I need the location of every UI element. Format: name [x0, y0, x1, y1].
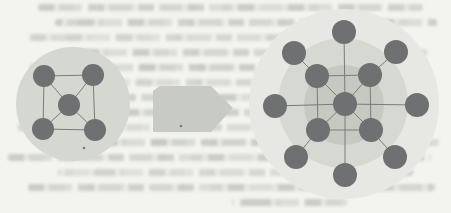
node-outer-nw: [282, 41, 306, 65]
node-bottom-right: [84, 119, 106, 141]
scan-speck-0: [83, 147, 86, 150]
node-outer-n: [332, 20, 356, 44]
node-bottom-left: [32, 118, 54, 140]
network-growth-figure: [0, 0, 451, 213]
small-network: [16, 47, 130, 161]
node-center: [333, 92, 357, 116]
scan-speck-1: [180, 125, 183, 128]
large-network: [249, 9, 439, 199]
node-top-right: [82, 64, 104, 86]
node-outer-w: [263, 94, 287, 118]
node-inner-bl: [306, 118, 330, 142]
node-center: [58, 94, 80, 116]
node-outer-ne: [384, 40, 408, 64]
node-outer-sw: [284, 145, 308, 169]
transform-arrow: [153, 86, 233, 132]
node-inner-tr: [358, 63, 382, 87]
node-inner-br: [359, 118, 383, 142]
node-top-left: [33, 65, 55, 87]
right-arrow-icon: [153, 86, 233, 132]
scanned-page: [0, 0, 451, 213]
node-inner-tl: [305, 64, 329, 88]
node-outer-se: [383, 145, 407, 169]
node-outer-e: [405, 93, 429, 117]
node-outer-s: [333, 163, 357, 187]
